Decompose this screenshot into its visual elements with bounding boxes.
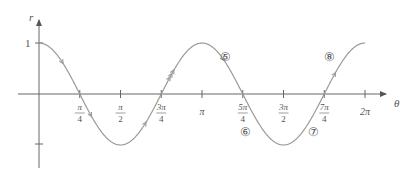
polar-function-chart: r θ 1 π4π23π4π5π43π27π42π ⑤⑥⑦⑧ <box>0 0 417 174</box>
x-tick-numerator: π <box>118 102 123 112</box>
theta-axis-label: θ <box>394 97 400 109</box>
x-tick-numerator: 7π <box>320 102 330 112</box>
segment-label: ⑥ <box>240 125 251 139</box>
x-tick-numerator: 3π <box>278 102 289 112</box>
x-tick-denominator: 2 <box>281 114 286 124</box>
x-tick-denominator: 4 <box>241 114 246 124</box>
x-tick-label: π <box>199 106 205 117</box>
segment-label: ⑦ <box>308 125 319 139</box>
x-tick-numerator: 5π <box>238 102 248 112</box>
r-axis-label: r <box>29 11 34 23</box>
x-tick-numerator: π <box>77 102 82 112</box>
segment-label: ⑧ <box>324 50 335 64</box>
x-tick-label: 2π <box>360 106 371 117</box>
direction-arrows <box>59 56 337 127</box>
x-ticks: π4π23π4π5π43π27π42π <box>75 90 371 124</box>
x-tick-numerator: 3π <box>156 102 167 112</box>
segment-label: ⑤ <box>220 50 231 64</box>
x-tick-denominator: 4 <box>78 114 83 124</box>
y-tick-label-1: 1 <box>25 37 31 49</box>
x-tick-denominator: 2 <box>118 114 123 124</box>
x-tick-denominator: 4 <box>322 114 327 124</box>
segment-annotations: ⑤⑥⑦⑧ <box>220 50 335 139</box>
x-tick-denominator: 4 <box>159 114 164 124</box>
